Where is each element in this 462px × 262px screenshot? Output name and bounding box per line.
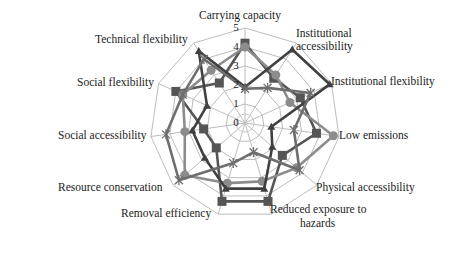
radial-tick-label: 0 bbox=[233, 116, 239, 128]
radial-tick-label: 3 bbox=[233, 59, 239, 71]
series-marker bbox=[312, 129, 321, 138]
axis-label-reduced-exposure-line1: Reduced exposure to bbox=[270, 203, 366, 216]
series-marker bbox=[271, 71, 280, 80]
axis-label-reduced-exposure-line2: hazards bbox=[300, 217, 335, 230]
radial-tick-label: 5 bbox=[233, 21, 239, 33]
axis-label-low-emissions: Low emissions bbox=[339, 129, 408, 142]
axis-label-carrying-capacity: Carrying capacity bbox=[199, 9, 281, 22]
radar-chart: Carrying capacity Institutional accessib… bbox=[0, 0, 462, 262]
series-marker bbox=[285, 98, 294, 107]
axis-label-institutional-accessibility-line1: Institutional bbox=[296, 27, 352, 40]
series-marker bbox=[203, 102, 211, 109]
series-marker bbox=[180, 127, 189, 136]
axis-label-social-flexibility: Social flexibility bbox=[77, 76, 154, 89]
series-marker bbox=[199, 124, 208, 133]
axis-label-institutional-accessibility-line2: accessibility bbox=[296, 40, 353, 53]
series-marker bbox=[329, 131, 338, 140]
radial-tick-label: 4 bbox=[233, 40, 239, 52]
axis-label-physical-accessibility: Physical accessibility bbox=[316, 181, 415, 194]
series-marker bbox=[241, 43, 250, 52]
radial-tick-label: 2 bbox=[233, 78, 239, 90]
series-marker bbox=[212, 143, 221, 152]
series-marker bbox=[195, 47, 203, 54]
radial-tick-label: 1 bbox=[233, 97, 239, 109]
axis-label-removal-efficiency: Removal efficiency bbox=[121, 207, 211, 220]
axis-label-social-accessibility: Social accessibility bbox=[58, 129, 146, 142]
axis-label-technical-flexibility: Technical flexibility bbox=[95, 33, 188, 46]
series-marker bbox=[278, 151, 287, 160]
series-marker bbox=[217, 197, 226, 206]
series-marker bbox=[215, 79, 224, 88]
axis-label-resource-conservation: Resource conservation bbox=[58, 181, 162, 194]
axis-label-institutional-flexibility: Institutional flexibility bbox=[331, 75, 435, 88]
series-marker bbox=[296, 93, 305, 102]
